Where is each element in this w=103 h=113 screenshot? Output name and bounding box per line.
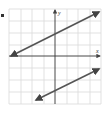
coordinate-plane: x y	[0, 0, 103, 113]
axes	[9, 10, 100, 104]
lower-line	[36, 69, 99, 100]
y-axis-label: y	[57, 10, 61, 16]
x-axis-label: x	[95, 48, 99, 54]
